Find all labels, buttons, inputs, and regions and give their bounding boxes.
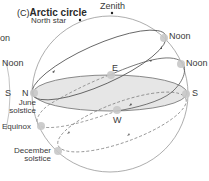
horizon-plane bbox=[33, 75, 187, 111]
path-direction-arrow bbox=[160, 46, 162, 49]
west-label: W bbox=[113, 116, 122, 125]
sun-marker-west bbox=[113, 106, 121, 114]
june-solstice-label-line2: solstice bbox=[4, 107, 36, 115]
zenith-label: Zenith bbox=[100, 2, 125, 11]
path-direction-arrow bbox=[67, 131, 70, 134]
path-direction-arrow bbox=[52, 70, 55, 73]
equinox-label: Equinox bbox=[2, 123, 31, 131]
north-star-dot bbox=[79, 19, 81, 21]
december-solstice-label: December solstice bbox=[6, 147, 51, 163]
sun-marker-noon-upper bbox=[160, 34, 168, 42]
noon-upper-label: Noon bbox=[169, 32, 191, 41]
noon-lower-label: Noon bbox=[186, 59, 208, 68]
sun-marker-equinox bbox=[37, 122, 45, 130]
path-direction-arrow bbox=[127, 133, 130, 136]
north-star-label: North star bbox=[31, 17, 66, 25]
sun-marker-noon-lower bbox=[177, 60, 185, 68]
north-label: N bbox=[22, 89, 29, 98]
previous-panel-noon-partial-label: on bbox=[0, 34, 10, 43]
december-solstice-label-line2: solstice bbox=[6, 155, 51, 163]
sun-marker-december-solstice bbox=[54, 147, 62, 155]
south-label: S bbox=[192, 89, 198, 98]
sun-marker-north bbox=[30, 89, 38, 97]
sun-marker-south bbox=[182, 90, 190, 98]
previous-panel-south-label: S bbox=[5, 89, 11, 98]
previous-panel-noon-label: Noon bbox=[2, 59, 24, 68]
zenith-dot bbox=[111, 12, 113, 14]
june-solstice-label: June solstice bbox=[4, 99, 36, 115]
east-label: E bbox=[112, 64, 118, 73]
panel-letter: (C) bbox=[17, 8, 30, 18]
